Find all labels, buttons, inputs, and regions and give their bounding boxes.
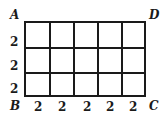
row-label: 2 xyxy=(10,60,18,72)
col-label: 2 xyxy=(129,101,137,113)
row-label: 2 xyxy=(10,36,18,48)
corner-label-a: A xyxy=(10,9,19,21)
col-label: 2 xyxy=(83,101,91,113)
corner-label-d: D xyxy=(149,9,159,21)
grid-rectangle xyxy=(0,0,168,115)
corner-label-c: C xyxy=(149,100,159,112)
col-label: 2 xyxy=(58,101,66,113)
col-label: 2 xyxy=(106,101,114,113)
row-label: 2 xyxy=(10,83,18,95)
col-label: 2 xyxy=(34,101,42,113)
corner-label-b: B xyxy=(10,100,20,112)
